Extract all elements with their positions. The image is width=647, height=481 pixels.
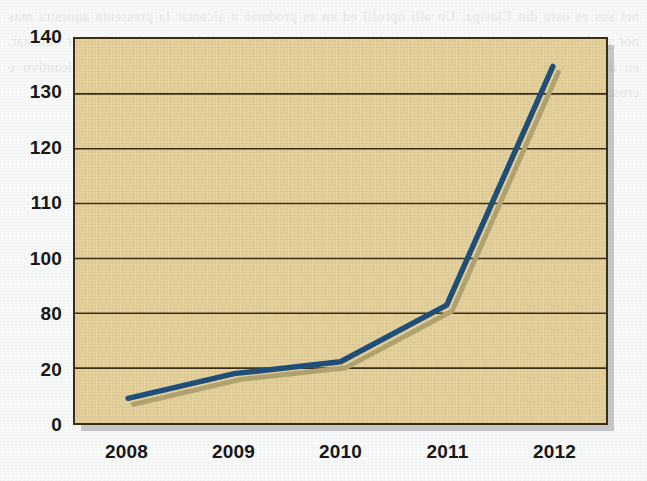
- chart-plot-area: [73, 37, 608, 425]
- series-line-shadow-1: [134, 72, 559, 404]
- y-axis-tick-0: 0: [8, 414, 62, 436]
- x-axis-tick-2012: 2012: [533, 441, 576, 463]
- y-axis-tick-130: 130: [8, 81, 62, 103]
- x-axis-tick-2011: 2011: [426, 441, 468, 463]
- x-axis-tick-2008: 2008: [105, 441, 148, 463]
- y-axis-tick-100: 100: [8, 248, 62, 270]
- y-axis-tick-140: 140: [8, 26, 62, 48]
- x-axis-tick-2009: 2009: [212, 441, 255, 463]
- chart-series-lines: [75, 39, 606, 423]
- y-axis-tick-120: 120: [8, 137, 62, 159]
- y-axis-tick-20: 20: [8, 359, 62, 381]
- y-axis-tick-80: 80: [8, 303, 62, 325]
- x-axis-tick-2010: 2010: [319, 441, 362, 463]
- line-chart-figure: 14013012011010080200 2008200920102011201…: [0, 0, 647, 481]
- y-axis-tick-110: 110: [8, 192, 62, 214]
- x-axis-tick-labels: 20082009201020112012: [73, 441, 608, 471]
- y-axis-tick-labels: 14013012011010080200: [8, 0, 62, 481]
